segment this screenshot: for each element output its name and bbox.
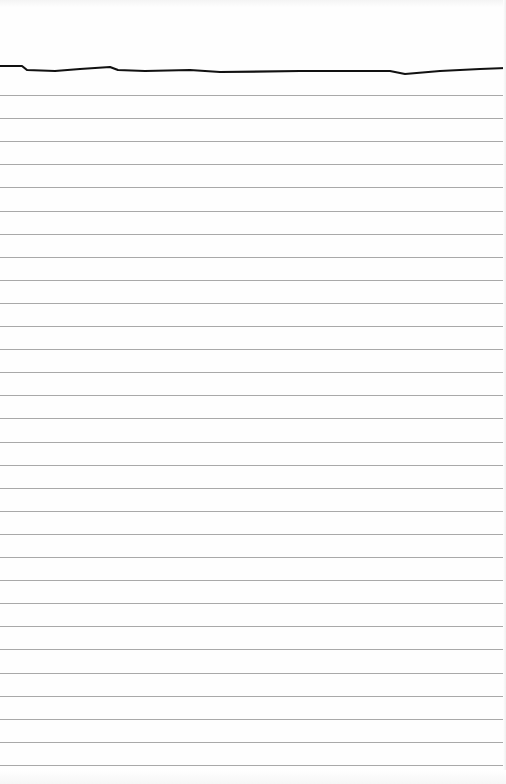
- ruled-line: [0, 372, 504, 373]
- ruled-line: [0, 349, 504, 350]
- ruled-line: [0, 280, 504, 281]
- ruled-line: [0, 673, 504, 674]
- ruled-line: [0, 603, 504, 604]
- torn-top-edge-line: [0, 55, 506, 79]
- ruled-line: [0, 141, 504, 142]
- top-shadow: [0, 0, 506, 8]
- ruled-line: [0, 395, 504, 396]
- ruled-line: [0, 95, 504, 96]
- ruled-line: [0, 696, 504, 697]
- ruled-line: [0, 534, 504, 535]
- bottom-shadow: [0, 770, 506, 784]
- ruled-line: [0, 719, 504, 720]
- ruled-line: [0, 649, 504, 650]
- ruled-line: [0, 742, 504, 743]
- ruled-line: [0, 118, 504, 119]
- ruled-line: [0, 442, 504, 443]
- ruled-line: [0, 418, 504, 419]
- ruled-line: [0, 511, 504, 512]
- ruled-line: [0, 465, 504, 466]
- ruled-line: [0, 187, 504, 188]
- ruled-line: [0, 488, 504, 489]
- ruled-line: [0, 765, 504, 766]
- ruled-line: [0, 257, 504, 258]
- ruled-line: [0, 557, 504, 558]
- ruled-line: [0, 326, 504, 327]
- ruled-line: [0, 303, 504, 304]
- ruled-line: [0, 211, 504, 212]
- ruled-line: [0, 626, 504, 627]
- lined-paper: [0, 0, 506, 784]
- ruled-line: [0, 164, 504, 165]
- ruled-line: [0, 580, 504, 581]
- ruled-line: [0, 234, 504, 235]
